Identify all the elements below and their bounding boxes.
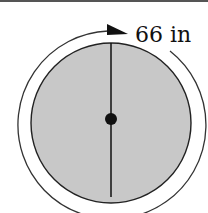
center-point	[105, 113, 117, 125]
arrow-head-icon	[107, 24, 128, 35]
circumference-label: 66 in	[135, 22, 191, 47]
